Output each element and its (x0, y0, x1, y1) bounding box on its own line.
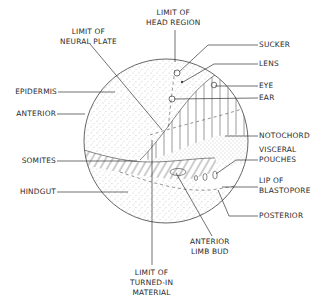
limb-bud-marker (170, 169, 186, 176)
label-line: MATERIAL (130, 288, 173, 298)
label-eye: EYE (259, 81, 273, 91)
label-line: POUCHES (259, 155, 296, 165)
label-line: ANTERIOR (190, 237, 230, 247)
label-lip-of-blastopore: LIP OF BLASTOPORE (259, 176, 311, 196)
label-notochord: NOTOCHORD (259, 131, 310, 141)
label-line: LIMIT OF (130, 268, 173, 278)
label-line: NEURAL PLATE (60, 37, 117, 47)
label-line: VISCERAL (259, 145, 296, 155)
label-anterior: ANTERIOR (4, 109, 56, 119)
label-limit-head-region: LIMIT OF HEAD REGION (146, 8, 201, 28)
label-hindgut: HINDGUT (4, 187, 56, 197)
label-line: LIMIT OF (60, 27, 117, 37)
label-ear: EAR (259, 93, 274, 103)
label-epidermis: EPIDERMIS (4, 87, 57, 97)
label-visceral-pouches: VISCERAL POUCHES (259, 145, 296, 165)
label-anterior-limb-bud: ANTERIOR LIMB BUD (190, 237, 230, 257)
embryo-sphere (80, 55, 260, 240)
label-line: LIMIT OF (146, 8, 201, 18)
label-line: LIP OF (259, 176, 311, 186)
label-limit-turned-in-material: LIMIT OF TURNED-IN MATERIAL (130, 268, 173, 298)
label-somites: SOMITES (4, 156, 56, 166)
label-line: LIMB BUD (190, 247, 230, 257)
label-line: BLASTOPORE (259, 186, 311, 196)
lens-marker (181, 81, 183, 83)
label-lens: LENS (259, 59, 279, 69)
label-sucker: SUCKER (259, 40, 290, 50)
label-posterior: POSTERIOR (259, 211, 303, 221)
label-line: HEAD REGION (146, 18, 201, 28)
label-line: TURNED-IN (130, 278, 173, 288)
label-limit-neural-plate: LIMIT OF NEURAL PLATE (60, 27, 117, 47)
